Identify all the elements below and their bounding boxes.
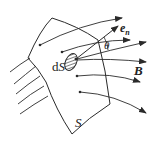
flux-diagram: dS en θ B S: [0, 0, 154, 146]
label-en-n: n: [125, 28, 129, 37]
label-en: en: [120, 22, 130, 37]
label-surface-S: S: [75, 116, 82, 129]
incoming-field-lines: [10, 58, 48, 114]
label-dS-S: S: [59, 59, 66, 74]
label-theta: θ: [104, 40, 109, 51]
label-dS: dS: [52, 60, 65, 73]
surface-outline: [28, 18, 110, 134]
label-B: B: [134, 64, 143, 77]
